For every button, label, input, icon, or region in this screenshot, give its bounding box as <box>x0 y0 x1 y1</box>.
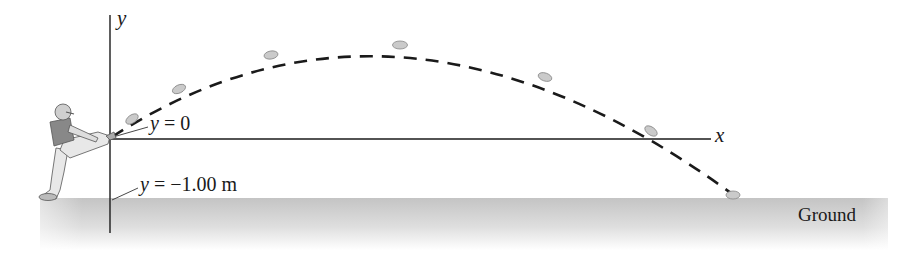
y-ground-annotation: y = −1.00 m <box>140 173 237 196</box>
y-zero-var: y <box>150 112 159 134</box>
ground <box>40 198 888 250</box>
football-icon <box>263 50 278 60</box>
football-icon <box>643 124 659 139</box>
y-ground-var: y <box>140 173 149 195</box>
football-icon <box>537 71 553 83</box>
football-icon <box>393 41 408 49</box>
football-icon <box>171 82 187 95</box>
y-zero-annotation: y = 0 <box>150 112 190 135</box>
y-axis-label: y <box>117 6 126 31</box>
football-icon <box>726 191 740 199</box>
projectile-diagram <box>0 0 917 255</box>
y-zero-eq: = 0 <box>164 112 190 134</box>
ground-label: Ground <box>798 204 856 226</box>
x-axis-label: x <box>715 123 724 148</box>
y-ground-eq: = −1.00 m <box>154 173 237 195</box>
kicker-figure <box>39 104 116 201</box>
